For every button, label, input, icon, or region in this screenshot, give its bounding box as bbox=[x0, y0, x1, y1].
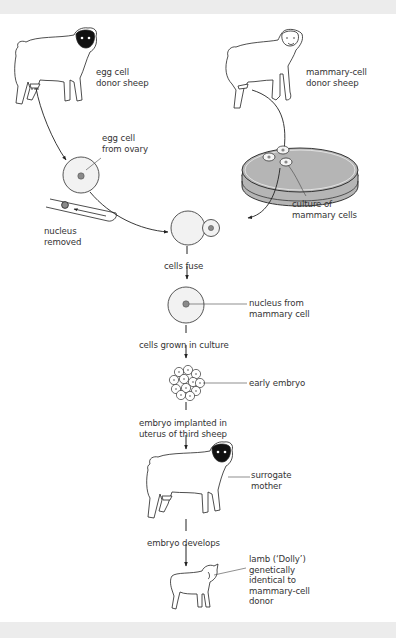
sheep-black-face-icon bbox=[147, 442, 250, 518]
diagram-graphics bbox=[0, 14, 396, 622]
cells-grown-label: cells grown in culture bbox=[139, 340, 229, 351]
mammary-donor-label: mammary-cell donor sheep bbox=[306, 67, 367, 88]
diagram-canvas: egg cell donor sheep mammary-cell donor … bbox=[0, 14, 396, 622]
egg-cell-icon bbox=[168, 287, 247, 323]
early-embryo-label: early embryo bbox=[249, 378, 305, 389]
bottom-frame-band bbox=[0, 622, 396, 638]
micropipette-icon bbox=[46, 199, 116, 221]
cells-fuse-label: cells fuse bbox=[164, 261, 203, 272]
top-frame-band bbox=[0, 0, 396, 14]
culture-label: culture of mammary cells bbox=[292, 199, 357, 220]
embryo-implanted-label: embryo implanted in uterus of third shee… bbox=[139, 418, 227, 439]
petri-dish-icon bbox=[242, 146, 358, 206]
embryo-cluster-icon bbox=[169, 365, 247, 400]
surrogate-label: surrogate mother bbox=[251, 470, 291, 491]
sheep-white-face-icon bbox=[226, 29, 303, 108]
egg-cell-icon bbox=[63, 157, 101, 193]
sheep-black-face-icon bbox=[15, 28, 97, 104]
egg-donor-label: egg cell donor sheep bbox=[96, 67, 149, 88]
lamb-icon bbox=[171, 564, 247, 609]
egg-cell-label: egg cell from ovary bbox=[102, 133, 148, 154]
nucleus-removed-label: nucleus removed bbox=[44, 226, 81, 247]
embryo-develops-label: embryo develops bbox=[147, 538, 220, 549]
fused-cells-icon bbox=[171, 211, 220, 245]
nucleus-from-mammary-label: nucleus from mammary cell bbox=[249, 298, 310, 319]
diagram-page: egg cell donor sheep mammary-cell donor … bbox=[0, 0, 396, 638]
lamb-label: lamb (‘Dolly’) genetically identical to … bbox=[249, 554, 310, 607]
